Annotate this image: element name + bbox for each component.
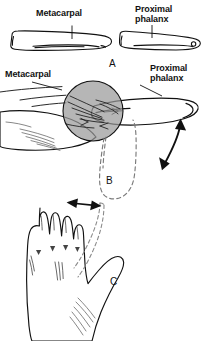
label-proximal-phalanx-b: Proximal phalanx [150,64,187,83]
motion-arc-arrow-b [160,121,184,169]
abduction-arrow-c [69,200,100,209]
label-proximal-phalanx-a: Proximal phalanx [135,5,172,24]
panel-a-drawing [0,0,211,341]
label-metacarpal-a: Metacarpal [36,9,82,19]
leader-line-proximal-phalanx-b [140,85,162,96]
thumb-dorsal-contours-b [0,87,66,107]
proximal-phalanx-bone-a [120,31,201,50]
panel-letter-b: B [106,175,113,186]
panel-letter-c: C [110,276,117,287]
hand-outline-c [27,208,124,341]
panel-letter-a: A [109,58,116,69]
anatomy-figure: Metacarpal Proximal phalanx A Metacarpal… [0,0,211,341]
label-metacarpal-b: Metacarpal [5,70,51,80]
leader-line-metacarpal-b [32,82,62,90]
metacarpal-bone-a [11,31,112,51]
